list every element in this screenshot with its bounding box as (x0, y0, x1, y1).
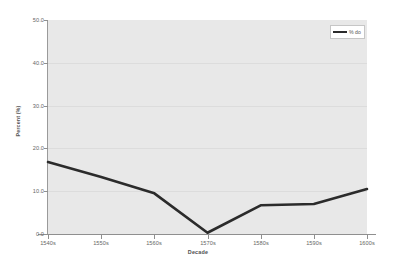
x-tick-mark (101, 235, 102, 239)
x-tick-mark (314, 235, 315, 239)
x-tick-label: 1560s (131, 240, 177, 247)
x-tick-label: 1580s (238, 240, 284, 247)
x-tick-label: 1600s (344, 240, 390, 247)
legend-swatch-percent (333, 31, 347, 33)
x-tick-label: 1540s (25, 240, 71, 247)
x-tick-mark (48, 235, 49, 239)
y-tick-label: 50.0 (4, 17, 44, 23)
series-line-group (48, 20, 367, 234)
x-axis-line (38, 234, 376, 235)
y-tick-label: 20.0 (4, 145, 44, 151)
legend: % do (330, 25, 365, 39)
x-tick-mark (208, 235, 209, 239)
x-tick-mark (154, 235, 155, 239)
series-line-percent (48, 162, 367, 233)
x-axis-title: Decade (0, 249, 396, 255)
x-tick-label: 1570s (185, 240, 231, 247)
legend-label-percent: % do (349, 29, 361, 35)
x-tick-mark (261, 235, 262, 239)
y-tick-label: 10.0 (4, 188, 44, 194)
y-tick-label: 0.0 (4, 231, 44, 237)
y-tick-label: 40.0 (4, 60, 44, 66)
x-tick-mark (367, 235, 368, 239)
y-axis-title: Percent (%) (15, 91, 21, 151)
x-tick-label: 1550s (78, 240, 124, 247)
x-tick-label: 1590s (291, 240, 337, 247)
line-chart-figure: 50.040.030.020.010.00.0 1540s1550s1560s1… (0, 0, 396, 273)
y-tick-label: 30.0 (4, 103, 44, 109)
